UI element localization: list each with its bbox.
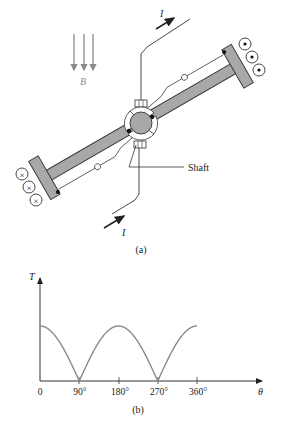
brush-top [135,100,147,107]
figure-b-chart: T θ 0 90° 180° 270° 360° (b) [29,271,263,416]
field-label: B [80,76,86,87]
caption-b: (b) [132,404,144,416]
cross-icon: × [33,196,38,206]
magnetic-field-arrows-icon [74,34,93,70]
torque-curve [40,326,197,381]
current-arrow-bottom-icon [104,216,124,228]
x-tick-label: 270° [150,387,168,397]
shaft [130,112,152,134]
current-arrow-top-icon [156,18,174,29]
figure-a: B I I [16,8,265,256]
top-lead-wire [141,19,190,100]
current-label-bottom: I [121,227,126,238]
cross-icon: × [26,183,31,193]
figure-canvas: B I I [0,0,282,425]
brush-bottom [134,141,146,148]
x-tick-label: 90° [73,387,87,397]
current-label-top: I [159,8,164,19]
x-tick-label: 360° [189,387,207,397]
x-axis-label: θ [258,386,263,397]
y-axis-label: T [29,271,36,282]
cross-icon: × [19,170,24,180]
caption-a: (a) [135,244,146,256]
bottom-lead-wire [112,148,139,214]
x-tick-label: 0 [38,387,43,397]
shaft-label: Shaft [188,162,209,173]
x-tick-label: 180° [111,387,129,397]
